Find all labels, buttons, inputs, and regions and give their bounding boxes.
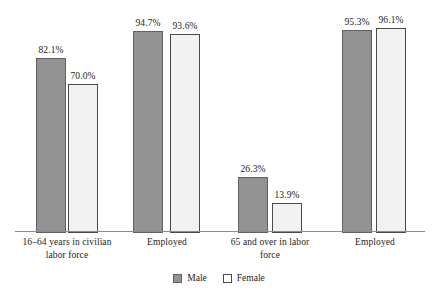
legend-label-male: Male	[187, 272, 207, 284]
category-label-3: Employed	[336, 236, 414, 249]
bar-female[interactable]	[272, 203, 302, 233]
bar-value-male: 95.3%	[344, 17, 369, 28]
bar-value-male: 82.1%	[38, 45, 63, 56]
bar-male[interactable]	[133, 31, 163, 233]
legend-swatch-female-icon	[223, 274, 232, 283]
category-label-line: 65 and over in labor	[212, 236, 328, 249]
bar-group: 94.7% 93.6%	[133, 0, 200, 233]
category-label-line: Employed	[336, 236, 414, 249]
bar-value-male: 94.7%	[135, 18, 160, 29]
bar-group: 26.3% 13.9%	[238, 0, 302, 233]
bar-female[interactable]	[170, 34, 200, 233]
category-label-line: force	[212, 249, 328, 262]
legend-item-male[interactable]: Male	[173, 272, 207, 284]
legend-item-female[interactable]: Female	[223, 272, 265, 284]
bar-group: 82.1% 70.0%	[36, 0, 97, 233]
bar-male[interactable]	[36, 58, 66, 233]
grouped-bar-chart: 82.1% 70.0% 94.7% 93.6% 26.3%	[0, 0, 438, 295]
category-label-line: 16–64 years in civilian	[8, 236, 126, 249]
category-label-line: Employed	[128, 236, 206, 249]
category-label-2: 65 and over in labor force	[212, 236, 328, 261]
plot-area: 82.1% 70.0% 94.7% 93.6% 26.3%	[0, 0, 438, 233]
category-axis-labels: 16–64 years in civilian labor force Empl…	[0, 236, 438, 268]
category-label-0: 16–64 years in civilian labor force	[8, 236, 126, 261]
category-label-line: labor force	[8, 249, 126, 262]
chart-legend: Male Female	[0, 272, 438, 284]
bar-value-female: 70.0%	[70, 71, 95, 82]
bar-group: 95.3% 96.1%	[342, 0, 406, 233]
bar-value-male: 26.3%	[240, 164, 265, 175]
bar-value-female: 13.9%	[274, 190, 299, 201]
legend-swatch-male-icon	[173, 274, 182, 283]
bar-value-female: 96.1%	[378, 15, 403, 26]
category-label-1: Employed	[128, 236, 206, 249]
bar-value-female: 93.6%	[172, 21, 197, 32]
bar-male[interactable]	[238, 177, 268, 233]
bar-female[interactable]	[68, 84, 98, 233]
bar-female[interactable]	[376, 28, 406, 233]
x-axis-baseline	[15, 231, 425, 232]
legend-label-female: Female	[237, 272, 265, 284]
bar-male[interactable]	[342, 30, 372, 233]
